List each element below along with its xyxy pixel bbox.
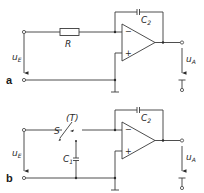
input-voltage-label: uE xyxy=(12,52,22,63)
opamp-plus: + xyxy=(125,147,132,156)
input-terminal-bottom xyxy=(22,176,25,179)
input-terminal-top xyxy=(22,30,25,33)
resistor-label: R xyxy=(65,39,71,49)
switch-label: S xyxy=(54,126,60,136)
input-voltage-label: uE xyxy=(12,148,22,159)
panel-a: R C2 − + uE uA a xyxy=(6,9,196,92)
capacitor-c2-label: C2 xyxy=(141,113,151,124)
circuit-diagram: R C2 − + uE uA a xyxy=(0,0,204,193)
panel-tag-a: a xyxy=(6,74,13,86)
capacitor-c2-label: C2 xyxy=(141,15,151,26)
opamp-minus: − xyxy=(125,125,132,134)
output-terminal-bottom xyxy=(180,186,183,189)
input-terminal-bottom xyxy=(22,78,25,81)
output-voltage-label: uA xyxy=(186,152,196,163)
resistor-r xyxy=(60,29,79,36)
input-terminal-top xyxy=(22,128,25,131)
output-terminal-top xyxy=(180,139,183,142)
capacitor-c1-label: C1 xyxy=(63,154,73,165)
output-terminal-bottom xyxy=(180,88,183,91)
switch-annotation: (T) xyxy=(66,113,79,123)
output-terminal-top xyxy=(180,41,183,44)
panel-b: (T) S C1 C2 − + uE uA xyxy=(6,107,196,190)
panel-tag-b: b xyxy=(6,172,13,184)
opamp-plus: + xyxy=(125,49,132,58)
output-voltage-label: uA xyxy=(186,54,196,65)
opamp-minus: − xyxy=(125,27,132,36)
